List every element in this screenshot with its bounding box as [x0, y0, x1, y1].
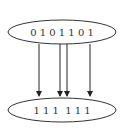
bottom-node: 1 1 1 1 1 1 — [8, 98, 116, 122]
edges — [39, 44, 90, 96]
top-node: 0 1 0 1 1 0 1 — [8, 20, 116, 44]
diagram-canvas: 0 1 0 1 1 0 1 1 1 1 1 1 1 — [0, 0, 125, 135]
bottom-node-label: 1 1 1 1 1 1 — [33, 105, 90, 116]
top-node-label: 0 1 0 1 1 0 1 — [30, 27, 94, 38]
